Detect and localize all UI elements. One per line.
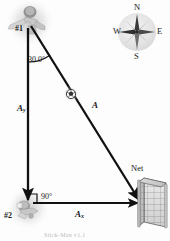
label-vector-a: A xyxy=(92,101,98,110)
label-vector-ax-subscript: x xyxy=(81,213,84,219)
ball-icon xyxy=(63,86,80,103)
label-angle-90: 90° xyxy=(41,193,52,201)
figure-caption: Stick-Man v1.1 xyxy=(44,232,86,238)
compass-rose xyxy=(118,13,156,51)
label-net: Net xyxy=(131,164,143,173)
label-vector-ay-subscript: y xyxy=(23,107,26,113)
label-vector-ay: Ay xyxy=(17,104,26,114)
diagram-canvas: #1 #2 30.0° 90° Ay Ax A Net N S E W Stic… xyxy=(0,0,170,241)
label-vector-ax: Ax xyxy=(75,210,84,220)
compass-label-west: W xyxy=(113,27,121,36)
label-player-two: #2 xyxy=(4,212,12,220)
label-player-one: #1 xyxy=(15,25,23,33)
diagram-svg xyxy=(0,0,170,241)
label-angle-30: 30.0° xyxy=(28,56,45,64)
compass-label-south: S xyxy=(134,52,139,61)
vector-a-arrow xyxy=(31,26,139,200)
compass-label-north: N xyxy=(134,3,140,12)
net-figure xyxy=(138,178,168,228)
compass-label-east: E xyxy=(157,27,162,36)
